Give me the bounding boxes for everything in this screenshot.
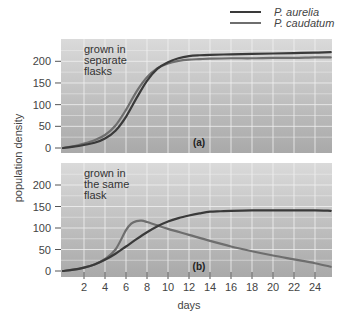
panel-label: (b) [193, 261, 206, 272]
panel-a-separate-flasks: 050100150200grown inseparateflasks(a) [33, 39, 332, 154]
y-tick-label: 150 [33, 201, 51, 213]
y-tick-label: 50 [39, 120, 51, 132]
x-tick-label: 6 [123, 281, 129, 293]
y-tick-label: 50 [39, 244, 51, 256]
x-axis-label: days [177, 299, 201, 311]
x-tick-label: 14 [204, 281, 216, 293]
panel-b-same-flask: 050100150200grown inthe sameflask(b) [33, 163, 332, 277]
panel-label: (a) [193, 137, 205, 148]
y-tick-label: 200 [33, 179, 51, 191]
x-tick-label: 8 [144, 281, 150, 293]
panel-annotation: flasks [84, 65, 113, 77]
y-tick-label: 0 [45, 142, 51, 154]
y-tick-label: 0 [45, 265, 51, 277]
figure: 050100150200grown inseparateflasks(a) 05… [0, 0, 347, 318]
x-tick-label: 18 [246, 281, 258, 293]
x-tick-label: 12 [183, 281, 195, 293]
x-tick-label: 20 [267, 281, 279, 293]
x-tick-label: 22 [288, 281, 300, 293]
y-tick-label: 200 [33, 55, 51, 67]
y-tick-label: 100 [33, 222, 51, 234]
x-tick-label: 16 [225, 281, 237, 293]
y-tick-label: 150 [33, 77, 51, 89]
x-tick-label: 24 [309, 281, 321, 293]
x-tick-label: 10 [162, 281, 174, 293]
x-tick-label: 4 [102, 281, 108, 293]
x-tick-label: 2 [81, 281, 87, 293]
y-tick-label: 100 [33, 99, 51, 111]
panel-annotation: flask [84, 189, 107, 201]
x-axis: 24681012141618202224days [81, 272, 321, 311]
